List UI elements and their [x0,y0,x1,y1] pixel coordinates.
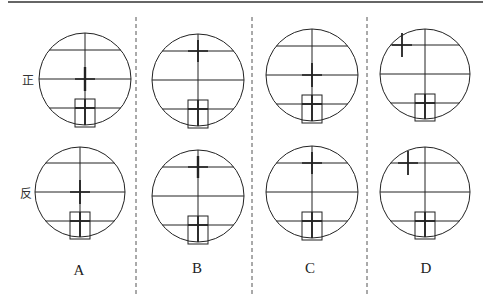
reticle-B-face-right [152,150,244,244]
option-label-A: A [74,262,85,279]
row-label-face-left: 正 [22,71,34,88]
row-label-face-right: 反 [20,184,32,201]
reticle-B-face-left [152,34,244,128]
reticle-A-face-right [35,147,125,239]
reticle-C-face-right [266,146,358,240]
reticle-diagram [0,0,488,303]
reticle-C-face-left [266,29,358,123]
reticle-D-face-right [380,147,470,239]
option-label-D: D [421,260,432,277]
reticle-D-face-left [380,29,470,121]
option-label-C: C [305,260,315,277]
option-label-B: B [192,260,202,277]
column-dividers [136,17,367,294]
reticle-A-face-left [39,33,131,127]
